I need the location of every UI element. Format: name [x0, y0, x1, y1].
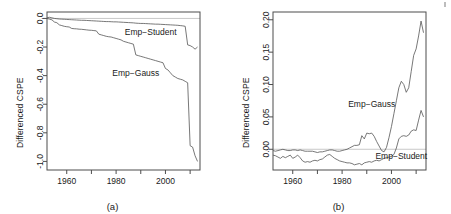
panel-a-y-axis-label: Differenced CSPE — [15, 78, 25, 148]
x-tick-label: 1960 — [283, 176, 302, 186]
series-annotation: Emp−Gauss — [112, 68, 159, 78]
panel-b: 0.000.050.100.150.20196019802000Emp−Gaus… — [226, 0, 451, 214]
x-tick-label: 1980 — [333, 176, 352, 186]
figure-root: 0.0-0.2-0.4-0.6-0.8-1.0196019802000Emp−S… — [0, 0, 451, 214]
y-tick-label: 0.0 — [35, 12, 45, 24]
y-tick-label: -0.4 — [35, 68, 45, 83]
panel-b-plot: 0.000.050.100.150.20196019802000Emp−Gaus… — [226, 0, 451, 214]
y-tick-label: -0.6 — [35, 97, 45, 112]
corner-artifact — [444, 2, 446, 7]
y-tick-label: 0.10 — [261, 76, 271, 93]
plot-frame — [273, 12, 426, 170]
y-tick-label: 0.05 — [261, 108, 271, 125]
panel-b-y-axis-label: Differenced CSPE — [241, 78, 251, 148]
y-tick-label: 0.20 — [261, 11, 271, 28]
series-annotation: Emp−Gauss — [348, 99, 395, 109]
y-tick-label: -0.2 — [35, 39, 45, 54]
x-tick-label: 1980 — [107, 176, 126, 186]
panel-b-caption: (b) — [226, 201, 451, 212]
plot-frame — [47, 12, 200, 170]
x-tick-label: 1960 — [57, 176, 76, 186]
panel-a: 0.0-0.2-0.4-0.6-0.8-1.0196019802000Emp−S… — [0, 0, 225, 214]
y-tick-label: -0.8 — [35, 125, 45, 140]
series-line-emp-gauss — [273, 21, 424, 152]
series-annotation: Emp−Student — [125, 27, 177, 37]
series-annotation: Emp−Student — [375, 151, 427, 161]
y-tick-label: 0.00 — [261, 141, 271, 158]
x-tick-label: 2000 — [382, 176, 401, 186]
panel-a-caption: (a) — [0, 201, 225, 212]
y-tick-label: -1.0 — [35, 154, 45, 169]
y-tick-label: 0.15 — [261, 44, 271, 61]
panel-a-plot: 0.0-0.2-0.4-0.6-0.8-1.0196019802000Emp−S… — [0, 0, 225, 214]
x-tick-label: 2000 — [156, 176, 175, 186]
series-line-emp-gauss — [47, 18, 198, 161]
